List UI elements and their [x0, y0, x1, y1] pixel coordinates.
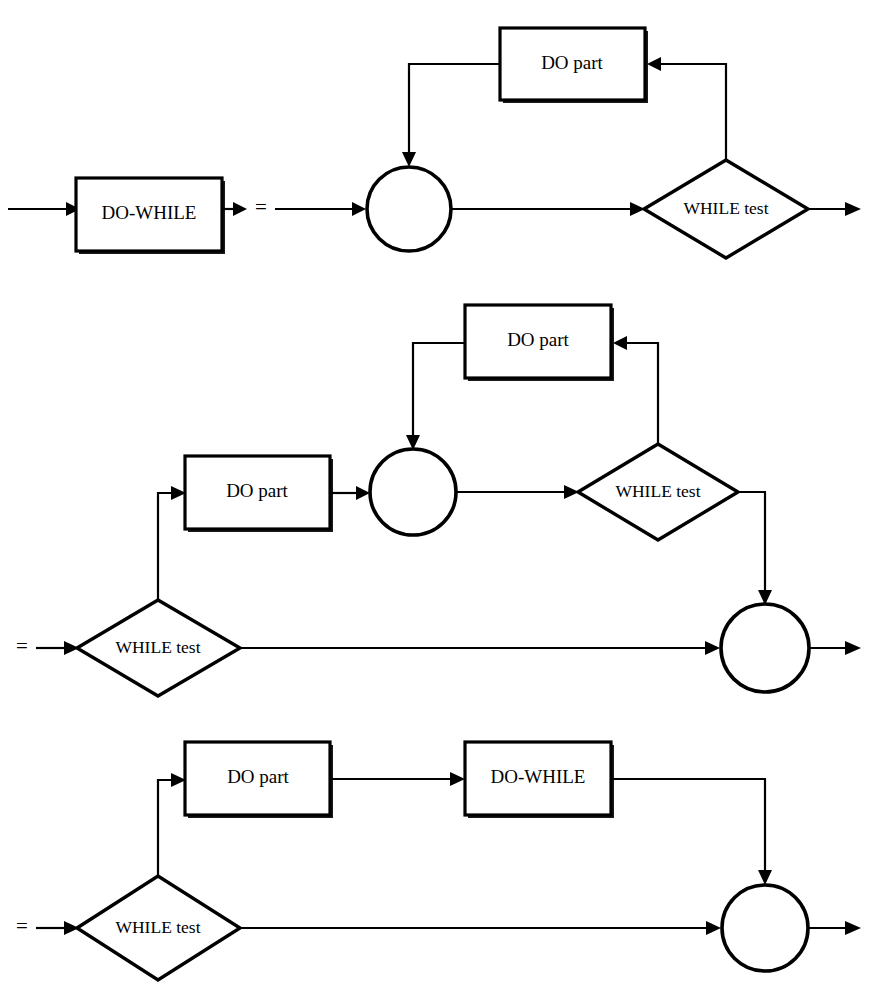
r3-do-while-to-junction — [611, 779, 772, 885]
r3-do-part-box: DO part — [185, 742, 333, 818]
r2-bottom-bypass-arrow — [240, 641, 720, 655]
r2-junction-to-test-arrow — [456, 485, 579, 499]
r3-while-test-diamond: WHILE test — [77, 876, 240, 980]
row-2-group: = WHILE test — [16, 305, 861, 696]
r1-equals-sign: = — [255, 195, 267, 219]
r2-while-test-top-diamond: WHILE test — [578, 444, 738, 540]
r2-bottom-diamond-to-do-part — [158, 486, 186, 600]
r1-do-part-label: DO part — [541, 52, 603, 73]
r3-final-exit-arrow — [808, 921, 861, 935]
r3-bottom-bypass-arrow — [240, 921, 721, 935]
r2-while-test-top-label: WHILE test — [615, 481, 700, 501]
flowchart-canvas: DO-WHILE = — [0, 0, 869, 999]
r3-do-while-label: DO-WHILE — [491, 766, 586, 787]
r1-while-test-diamond: WHILE test — [644, 160, 808, 258]
r3-do-part-to-do-while-arrow — [330, 772, 465, 786]
r1-while-test-label: WHILE test — [683, 198, 768, 218]
r1-do-while-box: DO-WHILE — [76, 178, 225, 254]
r1-entry-arrow — [8, 202, 80, 216]
r2-do-part-left-label: DO part — [226, 480, 288, 501]
r1-junction-to-test-arrow — [451, 202, 645, 216]
r2-junction-right-circle — [721, 604, 809, 692]
r3-do-while-box: DO-WHILE — [465, 742, 614, 818]
r2-entry-arrow — [36, 641, 79, 655]
r1-to-junction-arrow — [275, 202, 366, 216]
r1-exit-arrow — [222, 202, 247, 216]
r2-final-exit-arrow — [809, 641, 861, 655]
r2-do-part-top-box: DO part — [465, 305, 614, 381]
row-1-group: DO-WHILE = — [8, 28, 861, 258]
r1-feedback-into-do-part — [647, 57, 726, 160]
r1-do-part-box: DO part — [500, 28, 648, 103]
r3-equals-sign: = — [16, 914, 28, 938]
flowchart-diagram: DO-WHILE = — [0, 0, 869, 999]
r1-final-exit-arrow — [808, 202, 861, 216]
r3-while-test-label: WHILE test — [115, 917, 200, 937]
r2-do-part-top-to-junction — [406, 343, 465, 450]
r2-equals-sign: = — [16, 634, 28, 658]
r3-junction-right-circle — [722, 885, 808, 971]
r1-do-while-label: DO-WHILE — [102, 202, 197, 223]
row-3-group: = WHILE test — [16, 742, 861, 980]
r1-junction-circle — [367, 167, 451, 251]
r3-diamond-to-do-part — [158, 773, 186, 876]
r2-do-part-left-box: DO part — [185, 456, 333, 532]
r3-do-part-label: DO part — [227, 766, 289, 787]
r2-do-part-to-junction-arrow — [330, 486, 370, 500]
r2-while-test-bottom-diamond: WHILE test — [77, 600, 240, 696]
r2-test-to-right-junction — [738, 492, 772, 605]
r2-feedback-into-do-part-top — [613, 336, 658, 444]
r3-entry-arrow — [36, 921, 79, 935]
r2-do-part-top-label: DO part — [507, 329, 569, 350]
r2-while-test-bottom-label: WHILE test — [115, 637, 200, 657]
r2-junction-mid-circle — [370, 449, 456, 535]
r1-do-part-to-junction — [402, 64, 500, 167]
